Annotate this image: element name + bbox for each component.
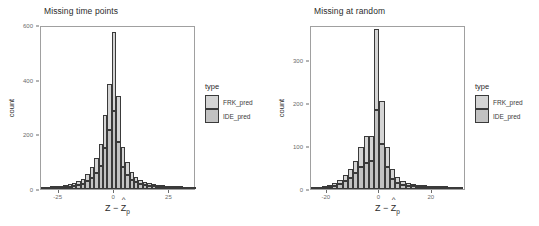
legend-item-label: IDE_pred: [493, 113, 520, 120]
y-axis-title-right: count: [277, 99, 286, 117]
legend-items-right: FRK_predIDE_pred: [475, 95, 537, 123]
y-tick-label: 0: [30, 187, 33, 193]
x-tick-mark: [378, 190, 379, 193]
y-tick-label: 200: [293, 101, 303, 107]
caret-accent-icon: ^: [391, 196, 397, 204]
legend-item-ide-pred[interactable]: IDE_pred: [475, 109, 537, 123]
facet-title-left: Missing time points: [44, 6, 118, 16]
x-tick-mark: [431, 190, 432, 193]
y-axis-left: count 0200400600: [0, 26, 40, 190]
legend-swatch-icon: [205, 109, 219, 123]
caret-accent-icon: ^: [121, 196, 127, 204]
y-tick-mark: [306, 103, 309, 104]
x-axis-title-minus: −: [113, 203, 118, 213]
y-axis-right: count 0100200300: [270, 26, 310, 190]
histogram-bars-left: [41, 27, 194, 189]
legend-item-frk-pred[interactable]: FRK_pred: [205, 95, 267, 109]
x-tick-mark: [113, 190, 114, 193]
x-axis-title-zhat: ^ Z: [391, 203, 397, 213]
x-axis-title-z: Z: [105, 203, 111, 213]
histogram-bars-right: [311, 27, 464, 189]
x-tick-label: -20: [321, 194, 330, 200]
y-tick-mark: [306, 190, 309, 191]
histogram-bar-segment-frk: [385, 147, 390, 168]
histogram-bar: [192, 188, 196, 189]
y-tick-mark: [306, 146, 309, 147]
y-tick-label: 200: [23, 132, 33, 138]
y-tick-label: 600: [23, 23, 33, 29]
y-tick-mark: [36, 190, 39, 191]
x-axis-right: -20020: [310, 190, 465, 202]
y-tick-mark: [36, 135, 39, 136]
facet-panel-missing-time-points: Missing time points count 0200400600 -25…: [0, 0, 270, 226]
y-tick-label: 400: [23, 78, 33, 84]
legend-swatch-icon: [475, 109, 489, 123]
x-tick-mark: [168, 190, 169, 193]
x-tick-label: 25: [165, 194, 172, 200]
histogram-bar-segment-frk: [379, 101, 384, 144]
x-axis-title-subscript: p: [126, 208, 130, 215]
x-tick-label: 0: [377, 194, 380, 200]
legend-left: type FRK_predIDE_pred: [205, 82, 267, 123]
legend-item-frk-pred[interactable]: FRK_pred: [475, 95, 537, 109]
x-tick-label: 0: [111, 194, 114, 200]
x-axis-left: -25025: [40, 190, 195, 202]
legend-item-label: IDE_pred: [223, 113, 250, 120]
legend-item-ide-pred[interactable]: IDE_pred: [205, 109, 267, 123]
legend-swatch-icon: [475, 95, 489, 109]
x-axis-title-left: Z − ^ Z p: [40, 203, 195, 215]
y-tick-mark: [306, 60, 309, 61]
y-tick-mark: [36, 26, 39, 27]
figure-root: Missing time points count 0200400600 -25…: [0, 0, 539, 226]
x-tick-label: 20: [428, 194, 435, 200]
legend-title-left: type: [205, 82, 267, 91]
x-axis-title-z: Z: [375, 203, 381, 213]
legend-items-left: FRK_predIDE_pred: [205, 95, 267, 123]
legend-swatch-icon: [205, 95, 219, 109]
y-tick-label: 0: [300, 187, 303, 193]
y-tick-label: 100: [293, 144, 303, 150]
y-axis-title-left: count: [7, 99, 16, 117]
histogram-bar-segment-frk: [374, 29, 379, 109]
plot-panel-right: [310, 26, 465, 190]
histogram-bar-segment-frk: [458, 187, 463, 189]
histogram-bar-segment-frk: [192, 187, 196, 189]
plot-panel-left: [40, 26, 195, 190]
x-tick-mark: [326, 190, 327, 193]
histogram-bar: [458, 188, 463, 189]
x-axis-title-subscript: p: [396, 208, 400, 215]
x-axis-title-zhat: ^ Z: [121, 203, 127, 213]
facet-title-right: Missing at random: [314, 6, 385, 16]
x-tick-label: -25: [53, 194, 62, 200]
histogram-bar-segment-frk: [116, 96, 120, 142]
legend-title-right: type: [475, 82, 537, 91]
legend-item-label: FRK_pred: [223, 99, 253, 106]
x-axis-title-minus: −: [383, 203, 388, 213]
y-tick-mark: [36, 80, 39, 81]
y-tick-label: 300: [293, 58, 303, 64]
x-axis-title-zhat-base: Z: [391, 203, 397, 213]
legend-item-label: FRK_pred: [493, 99, 523, 106]
x-axis-title-zhat-base: Z: [121, 203, 127, 213]
x-axis-title-right: Z − ^ Z p: [310, 203, 465, 215]
legend-right: type FRK_predIDE_pred: [475, 82, 537, 123]
x-tick-mark: [58, 190, 59, 193]
facet-panel-missing-at-random: Missing at random count 0100200300 -2002…: [270, 0, 539, 226]
